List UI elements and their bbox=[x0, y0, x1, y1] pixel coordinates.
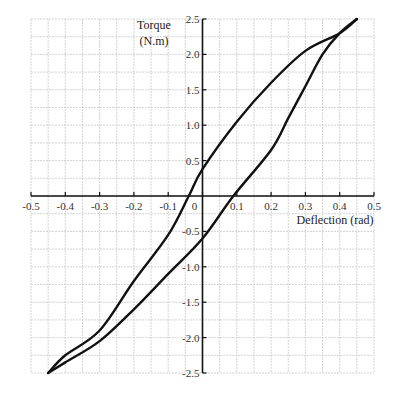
y-tick-label: 0.5 bbox=[186, 155, 200, 167]
x-tick-label: -0.3 bbox=[91, 200, 109, 212]
x-tick-label: 0.3 bbox=[299, 200, 313, 212]
y-tick-label: -0.5 bbox=[182, 225, 200, 237]
y-axis-title-line2: (N.m) bbox=[140, 34, 169, 48]
y-tick-label: -1.5 bbox=[182, 296, 200, 308]
x-tick-label: -0.1 bbox=[159, 200, 176, 212]
x-tick-label: 0.1 bbox=[230, 200, 244, 212]
x-axis-title: Deflection (rad) bbox=[297, 213, 374, 227]
y-tick-label: 1.5 bbox=[186, 84, 200, 96]
x-tick-label: 0.5 bbox=[367, 200, 381, 212]
x-tick-label: -0.4 bbox=[57, 200, 75, 212]
x-tick-label: -0.2 bbox=[125, 200, 142, 212]
y-tick-label: 2.5 bbox=[186, 13, 200, 25]
y-tick-label: 1.0 bbox=[186, 119, 200, 131]
x-tick-label: 0 bbox=[192, 200, 198, 212]
y-axis-title-line1: Torque bbox=[137, 18, 171, 32]
x-tick-label: 0.2 bbox=[264, 200, 278, 212]
x-tick-label: 0.4 bbox=[333, 200, 347, 212]
x-tick-label: -0.5 bbox=[22, 200, 40, 212]
y-tick-label: -1.0 bbox=[182, 261, 200, 273]
y-tick-label: 2.0 bbox=[186, 48, 200, 60]
y-tick-label: -2.5 bbox=[182, 367, 200, 379]
y-tick-label: -2.0 bbox=[182, 332, 200, 344]
hysteresis-chart: -0.5-0.4-0.3-0.2-0.100.10.20.30.40.52.52… bbox=[0, 0, 396, 394]
